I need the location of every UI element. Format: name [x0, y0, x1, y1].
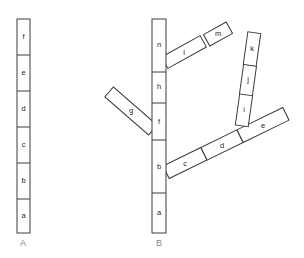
panel-b-segment-label-m: m — [215, 29, 221, 38]
panel-a-label: A — [20, 238, 26, 248]
panel-a-segment-label-e: e — [21, 68, 25, 77]
panel-b-segment-label-k: k — [250, 44, 254, 53]
panel-a-segment-label-c: c — [22, 140, 26, 149]
diagram-svg: f e d c b a A l m — [0, 0, 304, 258]
panel-b-segment-label-n: n — [157, 40, 161, 49]
panel-b-branch-g: g — [105, 87, 157, 135]
panel-b-segment-label-c: c — [183, 159, 187, 168]
panel-a: f e d c b a A — [17, 19, 30, 248]
panel-b-label: B — [156, 238, 162, 248]
panel-b-segment-label-b: b — [157, 162, 161, 171]
panel-a-segment-label-d: d — [21, 104, 25, 113]
panel-b-branch-cde: c d e — [163, 108, 289, 179]
figure-canvas: f e d c b a A l m — [0, 0, 304, 258]
panel-a-outline — [17, 19, 30, 233]
panel-b-segment-label-h: h — [157, 82, 161, 91]
panel-b-branch-ijk: i j k — [235, 32, 260, 127]
panel-a-segment-label-b: b — [21, 176, 25, 185]
panel-b: l m g c — [105, 19, 289, 248]
panel-b-segment-label-e: e — [261, 121, 265, 130]
panel-b-branch-lm: l m — [162, 22, 233, 68]
panel-b-segment-label-d: d — [220, 141, 224, 150]
panel-b-segment-label-j: j — [246, 75, 249, 84]
panel-b-trunk-outline — [152, 19, 166, 233]
panel-b-trunk: n h f b a — [152, 19, 166, 233]
panel-b-segment-label-g: g — [129, 106, 133, 115]
